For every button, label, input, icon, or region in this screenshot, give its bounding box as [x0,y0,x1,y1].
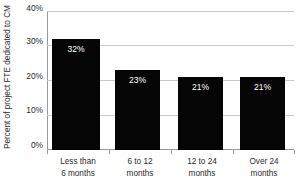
y-tick-label-30: 30% [13,37,43,46]
gridline-40 [47,11,294,12]
x-tick-2 [171,150,172,154]
bar-6-to-12-months[interactable]: 23% [115,70,160,150]
category-label-line-1: Less than [47,156,109,168]
y-axis-tick-labels: 40% 30% 20% 10% 0% [13,0,43,183]
y-tick-label-0: 0% [13,141,43,150]
bar-less-than-6-months[interactable]: 32% [52,39,100,150]
bar-value-label-1: 32% [52,44,100,54]
category-label-less-than-6-months: Less than 6 months [47,156,109,179]
x-axis-category-labels: Less than 6 months 6 to 12 months 12 to … [47,156,294,183]
y-tick-label-40: 40% [13,4,43,13]
category-label-over-24-months: Over 24 months [233,156,295,179]
bar-12-to-24-months[interactable]: 21% [178,77,223,150]
bar-value-label-2: 23% [115,75,160,85]
bar-value-label-3: 21% [178,82,223,92]
bar-over-24-months[interactable]: 21% [240,77,285,150]
plot-area: 32% 23% 21% 21% [47,11,294,150]
y-tick-label-10: 10% [13,106,43,115]
bar-chart-figure: Percent of project FTE dedicated to CM 4… [0,0,298,183]
category-label-line-1: Over 24 [233,156,295,168]
category-label-line-2: months [109,168,171,180]
category-label-line-2: 6 months [47,168,109,180]
y-tick-label-20: 20% [13,72,43,81]
bar-value-label-4: 21% [240,82,285,92]
category-label-line-2: months [171,168,233,180]
x-tick-0 [47,150,48,154]
x-tick-3 [233,150,234,154]
x-tick-1 [109,150,110,154]
category-label-line-1: 6 to 12 [109,156,171,168]
category-label-line-1: 12 to 24 [171,156,233,168]
category-label-6-to-12-months: 6 to 12 months [109,156,171,179]
category-label-line-2: months [233,168,295,180]
category-label-12-to-24-months: 12 to 24 months [171,156,233,179]
x-tick-4 [294,150,295,154]
